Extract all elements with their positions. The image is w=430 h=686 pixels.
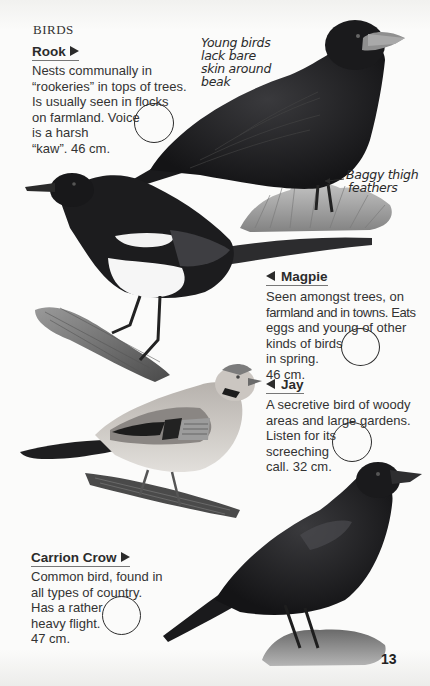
magpie-desc-line: farmland and in towns. Eats bbox=[266, 305, 416, 321]
carrion-crow-tick-circle[interactable] bbox=[102, 596, 141, 635]
magpie-tick-circle[interactable] bbox=[341, 328, 380, 366]
carrion-crow-illustration bbox=[163, 462, 422, 666]
jay-heading: Jay bbox=[266, 377, 304, 394]
rook-heading: Rook bbox=[32, 44, 79, 61]
rook-desc-line: “kaw”. 46 cm. bbox=[32, 141, 187, 157]
rook-tick-circle[interactable] bbox=[134, 103, 174, 143]
carrion-crow-description: Common bird, found in all types of count… bbox=[31, 569, 163, 647]
arrow-right-icon bbox=[121, 552, 130, 562]
rook-annotation-thigh: Baggy thigh feathers bbox=[346, 168, 418, 194]
book-page: BIRDS bbox=[0, 0, 430, 686]
magpie-heading: Magpie bbox=[266, 269, 328, 286]
rook-desc-line: “rookeries” in tops of trees. bbox=[32, 79, 187, 95]
jay-illustration bbox=[20, 364, 262, 518]
carrion-crow-heading: Carrion Crow bbox=[31, 550, 130, 567]
page-number: 13 bbox=[381, 651, 397, 667]
jay-name: Jay bbox=[281, 377, 304, 392]
annotation-line: beak bbox=[201, 75, 271, 88]
magpie-desc-line: Seen amongst trees, on bbox=[266, 289, 416, 305]
carrion-crow-desc-line: heavy flight. bbox=[31, 616, 163, 632]
carrion-crow-desc-line: all types of country. bbox=[31, 585, 163, 601]
magpie-desc-line: eggs and young of other bbox=[266, 320, 416, 336]
rook-annotation-beak: Young birds lack bare skin around beak bbox=[201, 36, 271, 88]
rook-name: Rook bbox=[32, 44, 66, 59]
annotation-line: feathers bbox=[346, 181, 418, 194]
arrow-left-icon bbox=[266, 379, 275, 389]
jay-desc-line: A secretive bird of woody bbox=[266, 397, 411, 413]
jay-tick-circle[interactable] bbox=[332, 422, 372, 462]
carrion-crow-desc-line: 47 cm. bbox=[31, 631, 163, 647]
carrion-crow-desc-line: Has a rather bbox=[31, 600, 163, 616]
magpie-name: Magpie bbox=[281, 269, 328, 284]
carrion-crow-name: Carrion Crow bbox=[31, 550, 117, 565]
arrow-left-icon bbox=[266, 271, 275, 281]
magpie-description: Seen amongst trees, on farmland and in t… bbox=[266, 289, 416, 382]
magpie-desc-line: in spring. bbox=[266, 351, 416, 367]
carrion-crow-desc-line: Common bird, found in bbox=[31, 569, 163, 585]
jay-desc-line: call. 32 cm. bbox=[266, 459, 411, 475]
arrow-right-icon bbox=[70, 46, 79, 56]
rook-desc-line: Nests communally in bbox=[32, 63, 187, 79]
